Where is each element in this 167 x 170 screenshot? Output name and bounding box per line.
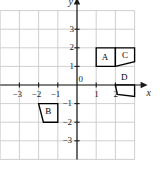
y-axis-label: y: [69, 0, 73, 6]
y-tick-label-5: −3: [63, 136, 73, 145]
shape-label-d: D: [121, 73, 128, 82]
y-tick-label-1: 2: [70, 43, 75, 52]
origin-label: 0: [79, 75, 84, 84]
coordinate-plane-svg: [0, 0, 167, 170]
x-tick-label-4: 2: [113, 90, 118, 99]
y-tick-label-2: 1: [70, 62, 75, 71]
x-tick-label-3: 1: [94, 90, 99, 99]
shape-label-c: C: [122, 51, 128, 60]
y-tick-label-0: 3: [70, 25, 75, 34]
shape-label-a: A: [102, 53, 109, 62]
x-tick-label-2: −1: [51, 90, 61, 99]
x-tick-label-0: −3: [12, 90, 22, 99]
y-axis-arrowhead: [74, 0, 80, 5]
y-tick-label-4: −2: [63, 118, 73, 127]
shape-label-b: B: [45, 107, 51, 116]
x-axis-label: x: [147, 88, 151, 97]
coordinate-plane-figure: −3−2−112321−1−2−30xyACBD: [0, 0, 167, 170]
x-tick-label-1: −2: [32, 90, 42, 99]
shape-polygon-d: [115, 85, 134, 97]
y-tick-label-3: −1: [63, 99, 73, 108]
